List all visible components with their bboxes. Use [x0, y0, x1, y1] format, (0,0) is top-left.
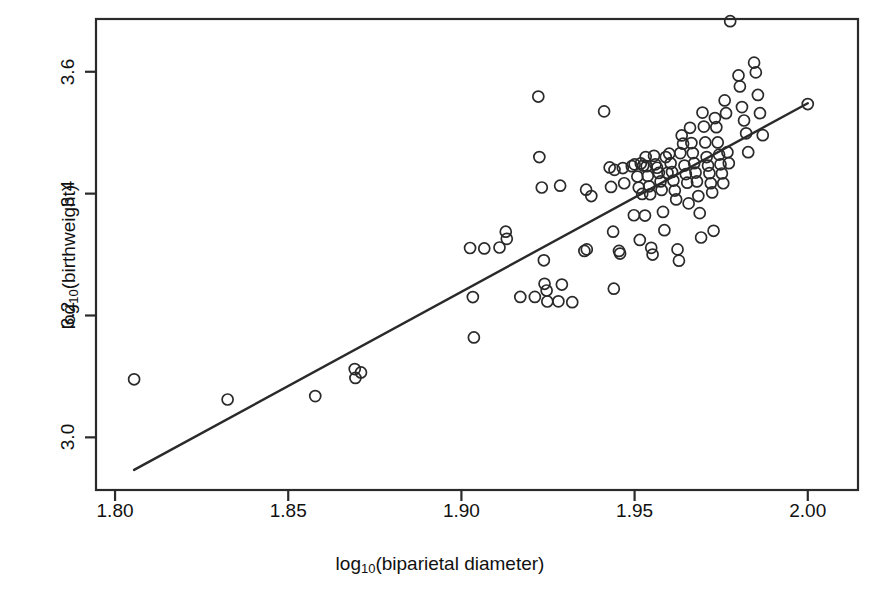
x-axis-title-subscript: 10	[361, 561, 375, 576]
y-tick-label: 3.2	[57, 293, 79, 337]
y-tick-label: 3.0	[57, 415, 79, 459]
x-axis-title-prefix: log	[336, 553, 361, 574]
scatter-plot-figure: log10(biparietal diameter) log10(birthwe…	[0, 0, 880, 598]
x-axis-title: log10(biparietal diameter)	[0, 553, 880, 576]
x-axis-title-suffix: (biparietal diameter)	[375, 553, 544, 574]
y-tick-label: 3.4	[57, 172, 79, 216]
x-tick-label: 2.00	[789, 500, 826, 522]
x-tick-label: 1.95	[616, 500, 653, 522]
x-tick-label: 1.80	[97, 500, 134, 522]
x-tick-label: 1.90	[443, 500, 480, 522]
x-tick-label: 1.85	[270, 500, 307, 522]
y-tick-label: 3.6	[57, 50, 79, 94]
y-axis-title: log10(birthweight)	[58, 107, 81, 407]
